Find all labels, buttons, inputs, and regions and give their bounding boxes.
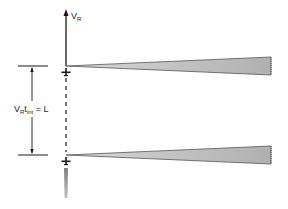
arrowhead-up-icon xyxy=(30,67,33,72)
velocity-label: VR xyxy=(71,11,82,22)
contrail-icon xyxy=(64,168,68,198)
aircraft-icon xyxy=(62,68,71,76)
arrowhead-up-icon xyxy=(64,9,69,16)
arrowhead-down-icon xyxy=(30,149,33,154)
aircraft-icon xyxy=(62,157,71,165)
velocity-vector xyxy=(64,9,69,66)
beam-footprint-bottom xyxy=(66,146,271,164)
integration-length-label: VRtint = L xyxy=(14,104,48,115)
beam-footprint-top xyxy=(66,57,271,75)
sar-integration-diagram: VR VRtint = L xyxy=(0,0,288,209)
